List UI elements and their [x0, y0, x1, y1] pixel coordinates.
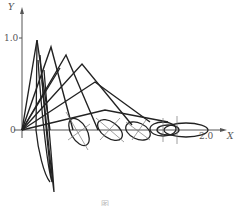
y-axis-arrow-icon [20, 7, 24, 14]
y-tick-label: 1.0 [4, 33, 18, 43]
ellipses [65, 112, 208, 150]
x-axis-label: X [227, 131, 233, 141]
origin-label: 0 [10, 125, 16, 135]
figure-caption: 图 … … [0, 198, 241, 206]
x-tick-label: 2.0 [199, 131, 213, 141]
mode-lines [22, 40, 168, 130]
x-axis-arrow-icon [220, 128, 227, 132]
diagram-canvas [0, 0, 241, 206]
y-axis-label: Y [8, 2, 14, 12]
diagram-figure: Y 1.0 0 2.0 X 图 … … [0, 0, 241, 206]
